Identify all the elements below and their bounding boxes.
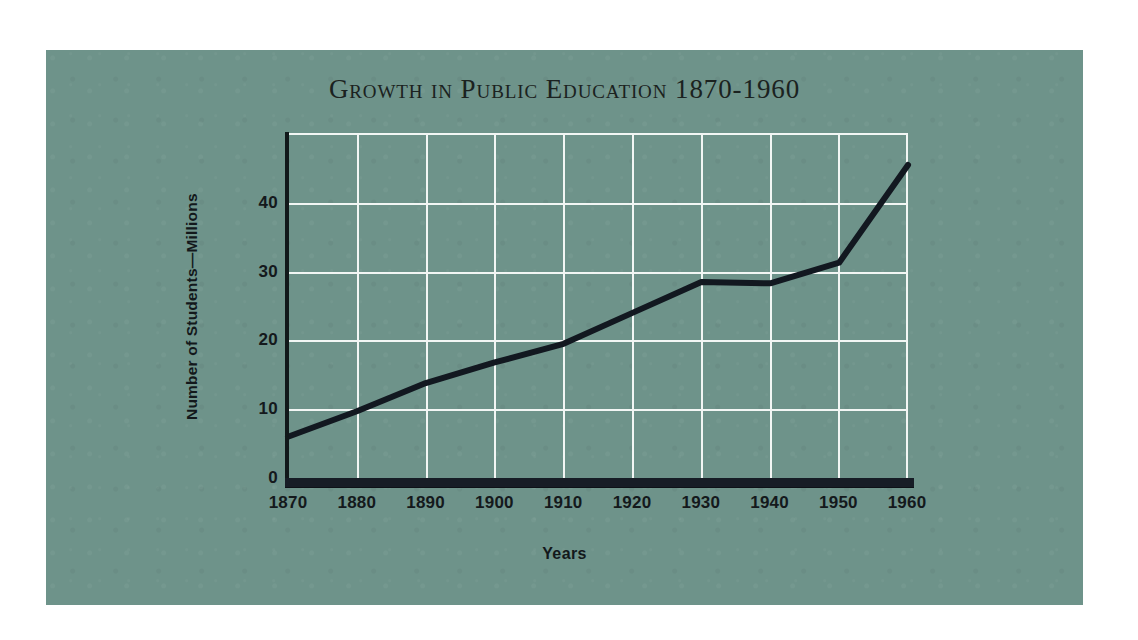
x-tick-1940: 1940 xyxy=(735,493,805,513)
x-axis-label: Years xyxy=(46,545,1083,563)
x-tick-1920: 1920 xyxy=(597,493,667,513)
x-tick-1950: 1950 xyxy=(803,493,873,513)
x-axis-tick-labels: 1870 1880 1890 1900 1910 1920 1930 1940 … xyxy=(288,493,928,519)
x-tick-1880: 1880 xyxy=(322,493,392,513)
data-series-line xyxy=(288,134,908,478)
chart-page: Growth in Public Education 1870-1960 40 … xyxy=(0,0,1138,640)
y-tick-30: 30 xyxy=(258,262,278,282)
x-tick-1890: 1890 xyxy=(391,493,461,513)
y-axis-tick-labels: 40 30 20 10 0 xyxy=(226,134,278,478)
y-axis-label: Number of Students—Millions xyxy=(183,120,201,420)
x-tick-1960: 1960 xyxy=(872,493,942,513)
plot-area xyxy=(288,134,908,478)
x-tick-1900: 1900 xyxy=(459,493,529,513)
y-axis-label-wrapper: Number of Students—Millions xyxy=(251,350,252,351)
y-tick-0: 0 xyxy=(268,468,278,488)
chart-panel: Growth in Public Education 1870-1960 40 … xyxy=(46,50,1083,605)
x-tick-1870: 1870 xyxy=(253,493,323,513)
x-axis-line xyxy=(285,478,914,487)
y-tick-20: 20 xyxy=(258,330,278,350)
y-axis-line xyxy=(285,132,289,480)
page-title: Growth in Public Education 1870-1960 xyxy=(46,74,1083,105)
x-tick-1910: 1910 xyxy=(528,493,598,513)
x-tick-1930: 1930 xyxy=(666,493,736,513)
y-tick-40: 40 xyxy=(258,193,278,213)
y-tick-10: 10 xyxy=(258,399,278,419)
